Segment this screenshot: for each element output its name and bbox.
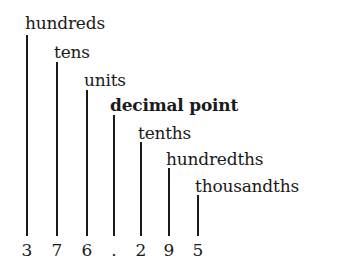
digit-thousandths: 5 xyxy=(191,240,205,260)
label-tens: tens xyxy=(54,43,90,61)
label-thousandths: thousandths xyxy=(195,177,299,195)
label-hundreds: hundreds xyxy=(25,14,105,32)
line-tens xyxy=(56,62,58,236)
line-thousandths xyxy=(197,195,199,236)
digit-tens: 7 xyxy=(50,240,64,260)
label-units: units xyxy=(84,71,126,89)
digit-hundreds: 3 xyxy=(20,240,34,260)
line-hundredths xyxy=(168,168,170,236)
digit-decimal-point: . xyxy=(107,240,121,260)
digit-tenths: 2 xyxy=(134,240,148,260)
label-tenths: tenths xyxy=(138,124,191,142)
line-hundreds xyxy=(26,35,28,236)
line-decimal-point xyxy=(113,115,115,236)
label-decimal-point: decimal point xyxy=(110,96,238,114)
line-units xyxy=(86,90,88,236)
label-hundredths: hundredths xyxy=(166,150,263,168)
digit-hundredths: 9 xyxy=(162,240,176,260)
line-tenths xyxy=(140,142,142,236)
digit-units: 6 xyxy=(80,240,94,260)
